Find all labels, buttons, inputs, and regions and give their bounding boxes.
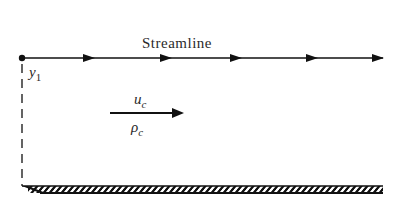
density-label: ρc	[130, 119, 143, 138]
flat-plate	[22, 186, 383, 193]
flow-arrow-icon	[160, 54, 172, 62]
flow-arrow-icon	[83, 54, 95, 62]
streamline-label: Streamline	[142, 35, 212, 51]
flow-arrow-icon	[230, 54, 242, 62]
flow-arrow-icon	[372, 54, 384, 62]
streamline-diagram: Streamline y1 uc ρc	[0, 0, 408, 209]
streamline	[22, 54, 384, 62]
origin-point	[19, 55, 25, 61]
velocity-label: uc	[134, 91, 147, 110]
flow-arrow-icon	[306, 54, 318, 62]
point-label: y1	[27, 64, 41, 83]
freestream-arrowhead-icon	[172, 108, 184, 118]
